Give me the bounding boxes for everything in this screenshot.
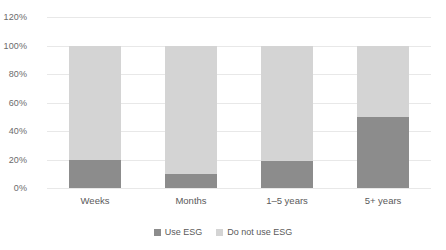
y-axis-tick-100: 100% — [0, 42, 27, 51]
bar-stack — [261, 46, 313, 188]
bar-stack — [165, 46, 217, 189]
y-axis-tick-60: 60% — [0, 99, 27, 108]
bar-segment-use-esg[interactable] — [69, 160, 121, 189]
legend-swatch-icon — [154, 229, 161, 236]
bar-segment-do-not-use-esg[interactable] — [69, 46, 121, 160]
bar-segment-use-esg[interactable] — [261, 161, 313, 188]
bar-stack — [357, 46, 409, 189]
gridline-0 — [47, 188, 431, 189]
legend-swatch-icon — [216, 229, 223, 236]
y-axis-tick-40: 40% — [0, 127, 27, 136]
bars-layer — [47, 17, 431, 188]
legend-label: Do not use ESG — [227, 228, 292, 237]
x-axis-label-months: Months — [143, 196, 239, 206]
y-axis-tick-80: 80% — [0, 70, 27, 79]
x-axis-label-weeks: Weeks — [47, 196, 143, 206]
x-axis-label-5-plus-years: 5+ years — [335, 196, 431, 206]
bar-segment-use-esg[interactable] — [165, 174, 217, 188]
legend-item-do-not-use-esg[interactable]: Do not use ESG — [216, 228, 292, 237]
legend-label: Use ESG — [165, 228, 203, 237]
bar-segment-do-not-use-esg[interactable] — [165, 46, 217, 174]
bar-group-1-5-years[interactable] — [261, 17, 313, 188]
bar-segment-do-not-use-esg[interactable] — [261, 46, 313, 161]
bar-segment-use-esg[interactable] — [357, 117, 409, 188]
bar-group-weeks[interactable] — [69, 17, 121, 188]
chart-container: 120% 100% 80% 60% 40% 20% 0% — [0, 0, 446, 250]
x-axis-label-1-5-years: 1–5 years — [239, 196, 335, 206]
legend-item-use-esg[interactable]: Use ESG — [154, 228, 203, 237]
chart-legend: Use ESG Do not use ESG — [0, 228, 446, 237]
y-axis-tick-0: 0% — [0, 184, 27, 193]
y-axis-tick-120: 120% — [0, 13, 27, 22]
y-axis-tick-20: 20% — [0, 156, 27, 165]
bar-group-months[interactable] — [165, 17, 217, 188]
x-axis-labels: Weeks Months 1–5 years 5+ years — [47, 196, 431, 212]
bar-stack — [69, 46, 121, 189]
bar-group-5-plus-years[interactable] — [357, 17, 409, 188]
bar-segment-do-not-use-esg[interactable] — [357, 46, 409, 117]
